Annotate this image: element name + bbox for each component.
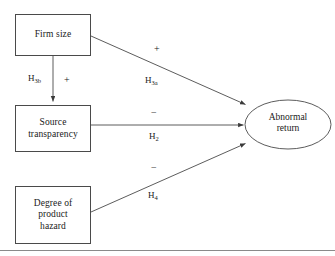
edge-h3a-line — [91, 36, 246, 105]
edge-h3a-sign: + — [154, 44, 160, 54]
edge-h2-label: H2 — [149, 132, 159, 141]
edge-h4-label: H4 — [148, 191, 158, 200]
edge-h3a-hypothesis-sub: 3a — [152, 79, 158, 86]
edge-h2-hypothesis-base: H — [149, 131, 156, 141]
edge-h3b-hypothesis-base: H — [28, 73, 35, 83]
node-abnormal-return-label: Abnormal return — [245, 112, 331, 135]
edge-h4-hypothesis-base: H — [148, 190, 155, 200]
edge-h3b-hypothesis-sub: 3b — [35, 77, 42, 84]
diagram-canvas: Firm size Source transparency Degree of … — [0, 0, 335, 256]
node-degree-of-product-hazard-label: Degree of product hazard — [32, 198, 75, 232]
node-degree-of-product-hazard[interactable]: Degree of product hazard — [15, 186, 91, 244]
edge-h2-hypothesis-sub: 2 — [156, 135, 159, 142]
node-source-transparency[interactable]: Source transparency — [15, 105, 91, 152]
node-firm-size-label: Firm size — [33, 29, 74, 40]
edge-h3a-label: H3a — [145, 76, 158, 85]
edge-h3a-hypothesis-base: H — [145, 75, 152, 85]
edge-h3b-sign: + — [64, 75, 70, 85]
edge-h4-hypothesis-sub: 4 — [155, 194, 158, 201]
edge-h4-sign: − — [151, 163, 157, 173]
node-source-transparency-label: Source transparency — [26, 117, 80, 139]
edge-h4-line — [91, 144, 246, 213]
edge-h3b-label: H3b — [28, 74, 41, 83]
edge-h2-sign: − — [151, 108, 157, 118]
node-firm-size[interactable]: Firm size — [15, 14, 91, 56]
bottom-divider — [0, 250, 335, 251]
